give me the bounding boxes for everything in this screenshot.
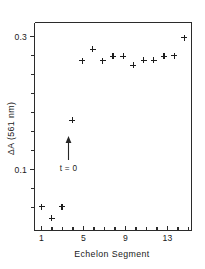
y-axis-title: ΔA (561 nm) [6,102,16,155]
x-tick-label-9: 9 [123,233,128,243]
t-zero-label: t = 0 [60,164,78,173]
x-tick-label-1: 1 [39,233,44,243]
y-tick-label-1: 0.1 [14,165,27,175]
scatter-plot: 0.3 0.1 ΔA (561 nm) 1 5 9 13 Eche [0,0,205,269]
plot-background [0,0,205,269]
x-tick-label-5: 5 [81,233,86,243]
figure-container: 0.3 0.1 ΔA (561 nm) 1 5 9 13 Eche [0,0,205,269]
x-axis-title: Echelon Segment [74,249,150,259]
y-tick-label-0: 0.3 [14,32,27,42]
x-tick-label-13: 13 [163,233,173,243]
